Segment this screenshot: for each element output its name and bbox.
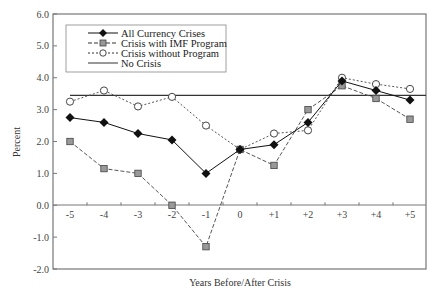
circle-marker-icon: [100, 87, 107, 94]
circle-marker-icon: [304, 127, 311, 134]
x-tick-label: +3: [337, 209, 348, 220]
diamond-marker-icon: [66, 113, 75, 122]
square-marker-icon: [203, 243, 209, 249]
series-group: [66, 74, 427, 250]
square-marker-icon: [305, 106, 311, 112]
circle-marker-icon: [270, 130, 277, 137]
x-tick-label: +1: [269, 209, 280, 220]
series-line: [70, 78, 410, 150]
circle-marker-icon: [134, 103, 141, 110]
x-tick-label: -3: [134, 209, 142, 220]
diamond-marker-icon: [100, 118, 109, 127]
y-tick-label: -1.0: [33, 232, 49, 243]
series-line: [70, 86, 410, 247]
x-tick-label: -2: [168, 209, 176, 220]
circle-marker-icon: [202, 122, 209, 129]
diamond-marker-icon: [270, 140, 279, 149]
y-tick-label: 6.0: [37, 9, 50, 20]
line-chart: 6.05.04.03.02.01.00.0-1.0-2.0 -5-4-3-2-1…: [0, 0, 440, 292]
x-tick-label: -4: [100, 209, 108, 220]
diamond-marker-icon: [372, 86, 381, 95]
y-tick-label: 1.0: [37, 168, 50, 179]
square-marker-icon: [407, 116, 413, 122]
circle-marker-icon: [406, 85, 413, 92]
square-marker-icon: [100, 40, 106, 46]
x-tick-label: +5: [405, 209, 416, 220]
x-tick-label: +4: [371, 209, 382, 220]
square-marker-icon: [169, 202, 175, 208]
x-tick-label: +2: [303, 209, 314, 220]
svg-text:No Crisis: No Crisis: [121, 58, 161, 69]
square-marker-icon: [67, 138, 73, 144]
diamond-marker-icon: [406, 96, 415, 105]
circle-marker-icon: [100, 50, 106, 56]
diamond-marker-icon: [134, 129, 143, 138]
x-axis-title: Years Before/After Crisis: [189, 277, 291, 288]
square-marker-icon: [373, 95, 379, 101]
square-marker-icon: [101, 165, 107, 171]
circle-marker-icon: [66, 98, 73, 105]
circle-marker-icon: [168, 93, 175, 100]
series-crisis-with-imf-program: [67, 83, 413, 250]
series-all-currency-crises: [66, 76, 415, 177]
y-tick-label: 0.0: [37, 200, 50, 211]
y-tick-label: 4.0: [37, 72, 50, 83]
y-axis-title: Percent: [11, 127, 22, 157]
x-tick-label: -1: [202, 209, 210, 220]
legend: All Currency Crises Crisis with IMF Prog…: [66, 25, 227, 72]
x-tick-label: 0: [238, 209, 243, 220]
square-marker-icon: [271, 162, 277, 168]
y-tick-label: 3.0: [37, 104, 50, 115]
y-tick-label: 5.0: [37, 40, 50, 51]
y-tick-label: 2.0: [37, 136, 50, 147]
y-tick-label: -2.0: [33, 264, 49, 275]
x-tick-label: -5: [66, 209, 74, 220]
square-marker-icon: [135, 170, 141, 176]
